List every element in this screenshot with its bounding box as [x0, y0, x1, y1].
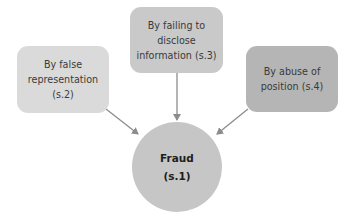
arrow-left-to-center	[106, 109, 138, 134]
node-failing-to-disclose: By failing to disclose information (s.3)	[130, 7, 223, 73]
center-label: Fraud (s.1)	[160, 149, 194, 185]
arrow-right-to-center	[217, 109, 248, 134]
node-label: By failing to disclose information (s.3)	[136, 18, 216, 63]
node-abuse-of-position: By abuse of position (s.4)	[246, 46, 338, 112]
node-label: By abuse of position (s.4)	[261, 64, 324, 94]
node-fraud-center: Fraud (s.1)	[132, 122, 222, 212]
node-label: By false representation (s.2)	[28, 57, 98, 102]
node-false-representation: By false representation (s.2)	[17, 46, 109, 113]
